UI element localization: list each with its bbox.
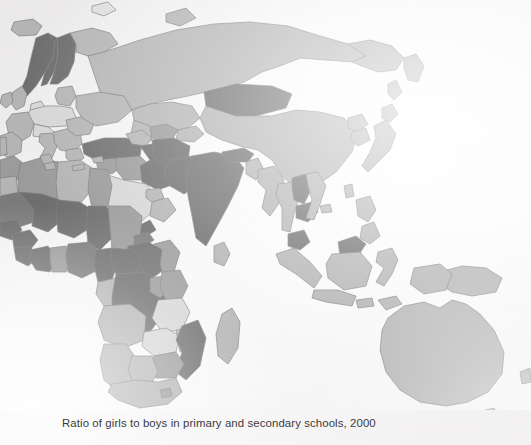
region-egypt bbox=[88, 168, 112, 208]
map-figure: Ratio of girls to boys in primary and se… bbox=[0, 0, 531, 445]
region-portugal bbox=[0, 137, 7, 156]
region-tasmania bbox=[478, 408, 500, 410]
region-novaya-zemlya bbox=[166, 8, 196, 26]
figure-caption: Ratio of girls to boys in primary and se… bbox=[62, 416, 492, 430]
region-angola bbox=[98, 304, 146, 348]
region-taiwan bbox=[344, 184, 354, 198]
region-new-zealand-n bbox=[520, 368, 531, 384]
region-irian-jaya bbox=[410, 264, 452, 294]
region-oman bbox=[150, 198, 176, 222]
region-sri-lanka bbox=[214, 242, 230, 266]
region-philippines bbox=[356, 196, 380, 244]
region-iceland bbox=[11, 19, 42, 36]
region-sulawesi bbox=[376, 248, 398, 286]
region-lesotho bbox=[160, 388, 172, 398]
world-map bbox=[0, 0, 531, 410]
region-timor bbox=[378, 296, 402, 310]
region-india bbox=[186, 152, 244, 246]
region-kamchatka bbox=[404, 54, 424, 82]
region-australia bbox=[380, 300, 504, 406]
region-baltics bbox=[55, 86, 76, 106]
region-ireland bbox=[0, 92, 13, 108]
region-malaysia-west bbox=[288, 230, 310, 250]
region-sakhalin bbox=[388, 80, 402, 100]
region-hainan bbox=[320, 204, 332, 213]
region-svalbard bbox=[92, 2, 116, 16]
region-java bbox=[312, 290, 356, 306]
region-madagascar bbox=[216, 308, 240, 364]
world-map-svg bbox=[0, 0, 531, 410]
region-zambia bbox=[142, 328, 180, 356]
region-lesser-sunda bbox=[356, 298, 374, 308]
region-sumatra bbox=[276, 248, 322, 288]
region-borneo bbox=[326, 252, 372, 290]
region-nepal-bhutan bbox=[222, 148, 254, 162]
